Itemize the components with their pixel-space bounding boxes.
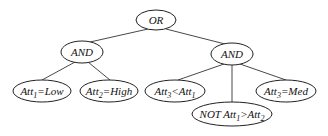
node-and-left: AND <box>61 41 103 63</box>
node-and-left-label: AND <box>70 46 93 58</box>
node-or: OR <box>136 10 176 30</box>
node-att3-med: Att3=Med <box>256 80 316 102</box>
edge-or-and2 <box>166 29 225 44</box>
edge-or-and1 <box>90 29 148 42</box>
edge-and1-leaf1 <box>42 62 75 80</box>
node-att1-low: Att1=Low <box>13 80 71 102</box>
logic-tree-diagram: OR AND AND Att1=Low Att2=High Att3<Att1 … <box>0 0 328 136</box>
node-att2-high: Att2=High <box>80 80 138 102</box>
edge-and2-leaf3 <box>178 64 224 80</box>
edge-and2-leaf5 <box>240 64 286 80</box>
edge-and1-leaf2 <box>88 62 110 80</box>
node-att3-lt-att1: Att3<Att1 <box>145 80 205 102</box>
node-not-att1-gt-att2: NOT Att1>Att2 <box>192 102 272 126</box>
node-and-right: AND <box>211 43 253 65</box>
node-and-right-label: AND <box>220 48 243 60</box>
node-or-label: OR <box>149 14 164 26</box>
